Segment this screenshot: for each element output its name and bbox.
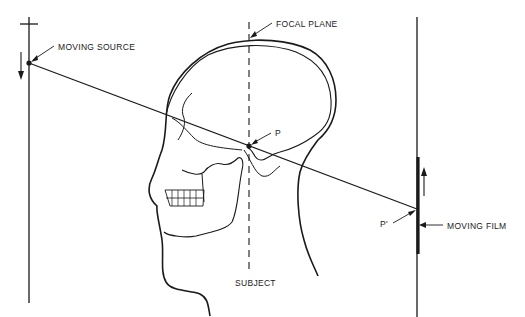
film-label: MOVING FILM xyxy=(447,221,507,231)
film-track xyxy=(417,17,418,317)
point-p xyxy=(246,143,251,148)
head-outline xyxy=(149,40,336,316)
x-ray-beam xyxy=(29,63,417,209)
film-label-group: MOVING FILM xyxy=(419,221,507,231)
source-label-group: MOVING SOURCE xyxy=(31,42,135,62)
focal-plane-label: FOCAL PLANE xyxy=(276,19,338,29)
teeth xyxy=(165,190,204,206)
point-p-prime-label: P' xyxy=(380,219,388,229)
orbit-outline xyxy=(178,93,192,140)
source-label: MOVING SOURCE xyxy=(58,42,135,52)
subject-label: SUBJECT xyxy=(235,278,276,288)
down-arrow-icon xyxy=(18,52,24,80)
cheek-line xyxy=(172,118,242,150)
focal-plane-label-group: FOCAL PLANE xyxy=(250,19,338,38)
point-p-label: P xyxy=(275,128,281,138)
tomography-diagram: MOVING SOURCE MOVING FILM FOCAL PLANE xyxy=(0,0,525,317)
up-arrow-icon xyxy=(421,167,427,196)
point-p-label-group: P xyxy=(251,128,281,145)
point-p-prime-label-group: P' xyxy=(380,210,416,229)
